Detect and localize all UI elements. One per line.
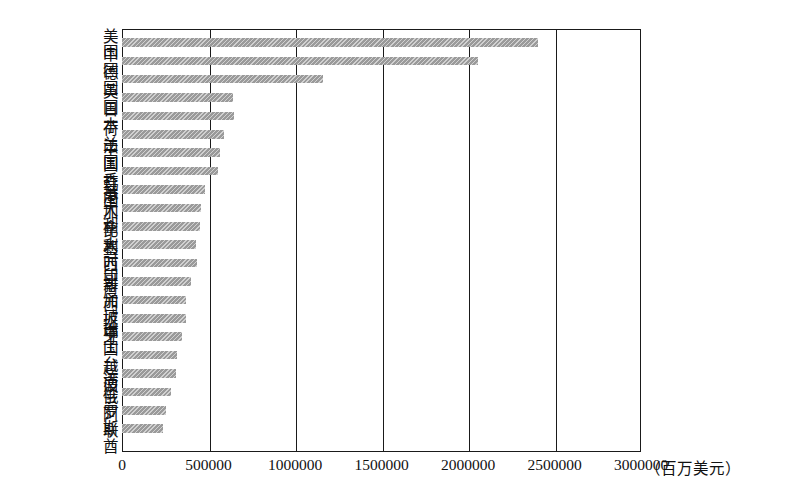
bar[interactable] xyxy=(122,424,163,433)
bar[interactable] xyxy=(122,277,191,286)
bar-row[interactable] xyxy=(122,53,641,71)
bar-row[interactable] xyxy=(122,421,641,439)
x-axis-tick-label: 2500000 xyxy=(527,456,581,474)
bar-row[interactable] xyxy=(122,35,641,53)
bar[interactable] xyxy=(122,240,196,249)
bar[interactable] xyxy=(122,369,176,378)
bar-row[interactable] xyxy=(122,292,641,310)
bar[interactable] xyxy=(122,167,218,176)
bar[interactable] xyxy=(122,148,220,157)
bar[interactable] xyxy=(122,222,200,231)
bar-row[interactable] xyxy=(122,366,641,384)
bar-row[interactable] xyxy=(122,329,641,347)
bar-chart-figure: 美国中国德国英国日本荷兰法国中国香港韩国意大利加拿大比利时墨西哥印度新加坡西班牙… xyxy=(0,0,788,504)
bar-row[interactable] xyxy=(122,145,641,163)
x-axis-tick-label: 2000000 xyxy=(441,456,495,474)
bar-row[interactable] xyxy=(122,163,641,181)
bar[interactable] xyxy=(122,75,323,84)
bar[interactable] xyxy=(122,259,197,268)
x-axis-labels: （百万美元） 050000010000001500000200000025000… xyxy=(0,456,788,484)
bar-row[interactable] xyxy=(122,237,641,255)
bar-row[interactable] xyxy=(122,310,641,328)
bar[interactable] xyxy=(122,112,234,121)
bar[interactable] xyxy=(122,314,186,323)
bar-row[interactable] xyxy=(122,255,641,273)
bar[interactable] xyxy=(122,185,205,194)
bar-row[interactable] xyxy=(122,274,641,292)
x-axis-tick-label: 1000000 xyxy=(268,456,322,474)
bar[interactable] xyxy=(122,204,201,213)
x-axis-tick-label: 500000 xyxy=(185,456,232,474)
bar[interactable] xyxy=(122,332,182,341)
bar[interactable] xyxy=(122,296,186,305)
bar-row[interactable] xyxy=(122,71,641,89)
bar-row[interactable] xyxy=(122,347,641,365)
bar-row[interactable] xyxy=(122,384,641,402)
bar-row[interactable] xyxy=(122,218,641,236)
bar[interactable] xyxy=(122,351,177,360)
bar[interactable] xyxy=(122,38,538,47)
bar-row[interactable] xyxy=(122,108,641,126)
bar[interactable] xyxy=(122,93,233,102)
x-axis-tick-label: 0 xyxy=(118,456,126,474)
bar[interactable] xyxy=(122,388,171,397)
bar-row[interactable] xyxy=(122,90,641,108)
screenshot-root: 美国中国德国英国日本荷兰法国中国香港韩国意大利加拿大比利时墨西哥印度新加坡西班牙… xyxy=(0,0,788,504)
x-axis-tick-label: 3000000 xyxy=(614,456,668,474)
bar[interactable] xyxy=(122,406,166,415)
y-axis-labels: 美国中国德国英国日本荷兰法国中国香港韩国意大利加拿大比利时墨西哥印度新加坡西班牙… xyxy=(0,29,120,452)
bar[interactable] xyxy=(122,57,478,66)
bars-layer xyxy=(122,29,641,452)
y-axis-tick-label: 阿联酋 xyxy=(101,421,117,439)
bar[interactable] xyxy=(122,130,224,139)
bar-row[interactable] xyxy=(122,182,641,200)
bar-row[interactable] xyxy=(122,126,641,144)
bar-row[interactable] xyxy=(122,402,641,420)
x-axis-tick-label: 1500000 xyxy=(354,456,408,474)
bar-row[interactable] xyxy=(122,200,641,218)
y-axis-tick-label-text: 阿联酋 xyxy=(101,406,117,454)
